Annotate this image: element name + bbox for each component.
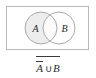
set-b-label: B [61,23,67,34]
term-a-symbol: A [36,62,43,74]
venn-diagram-figure-root: A B A ∪B [0,0,96,78]
venn-diagram-svg: A B [0,0,96,54]
expression-outer-overline: A ∪B [36,55,59,75]
caption-formula: A ∪B [0,55,96,78]
term-a-with-overline: A [36,61,43,74]
venn-diagram-canvas: A B [0,0,96,54]
expression-inner: A ∪B [36,59,59,75]
set-a-label: A [31,23,39,34]
union-operator-symbol: ∪ [43,63,53,74]
term-b-symbol: B [53,62,60,74]
